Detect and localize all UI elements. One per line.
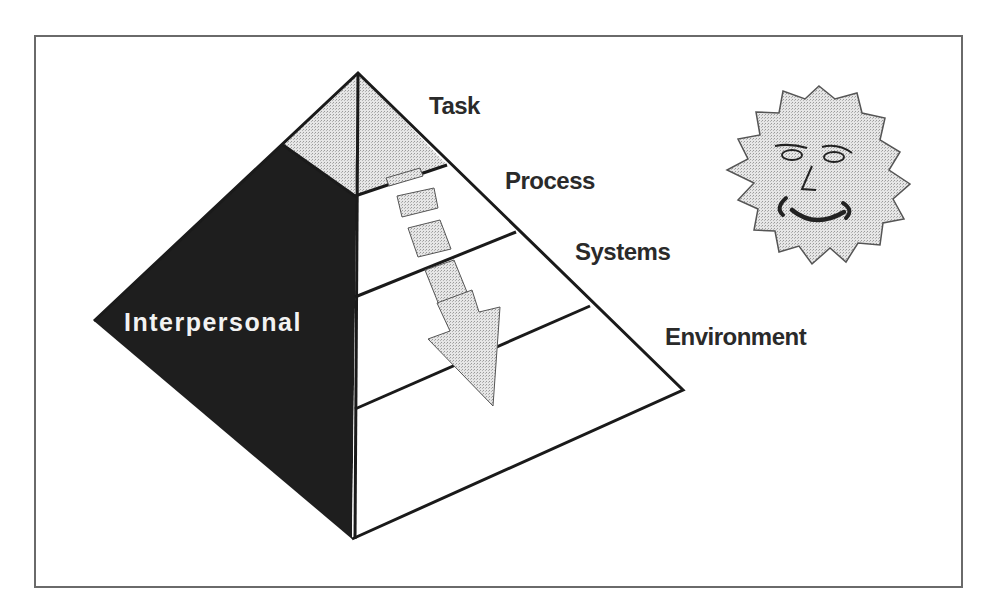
level-label-process: Process [505,167,595,195]
level-label-environment: Environment [665,323,806,351]
smiling-sun-icon [727,86,910,264]
level-label-systems: Systems [575,238,670,266]
side-label-interpersonal: Interpersonal [124,308,302,337]
level-label-task: Task [429,92,480,120]
